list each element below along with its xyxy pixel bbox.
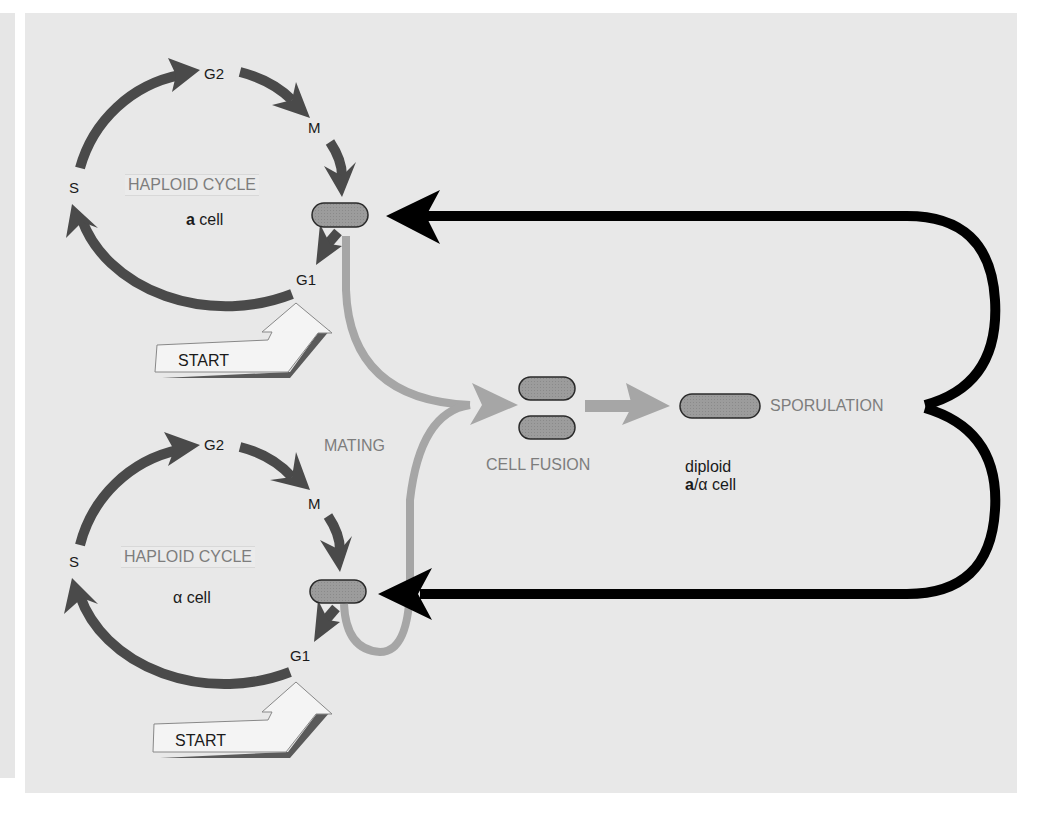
bottom-haploid-cycle-title: HAPLOID CYCLE [121, 546, 255, 568]
bottom-phase-g1-label: G1 [290, 648, 310, 663]
arrowhead-to-fusion-icon [470, 383, 518, 425]
fusing-cell-top [519, 377, 575, 400]
haploid-a-cell [312, 203, 368, 227]
cell-type-alpha: α [173, 589, 182, 606]
arrowhead-cell-to-g1-icon [314, 600, 340, 642]
bottom-cell-label: α cell [173, 590, 211, 606]
diploid-cell [680, 394, 760, 418]
top-phase-s-label: S [69, 180, 79, 195]
bottom-phase-s-label: S [69, 554, 79, 569]
top-start-label: START [178, 353, 229, 369]
top-phase-g2-label: G2 [204, 66, 224, 81]
diploid-a-bold: a [685, 476, 694, 493]
bottom-phase-m-label: M [308, 496, 321, 511]
sporulation-label: SPORULATION [770, 398, 884, 414]
top-phase-g1-label: G1 [296, 272, 316, 287]
cell-word: cell [182, 589, 210, 606]
yeast-life-cycle-diagram [0, 0, 1041, 815]
cell-type-a: a [186, 211, 195, 228]
top-phase-m-label: M [308, 120, 321, 135]
haploid-alpha-cell [310, 580, 366, 603]
diploid-alpha-cell: /α cell [694, 476, 736, 493]
fusion-to-diploid-arrow [585, 383, 670, 425]
bottom-start-label: START [175, 733, 226, 749]
diploid-label-line2: a/α cell [685, 476, 736, 494]
cell-fusion-label: CELL FUSION [486, 457, 590, 473]
mating-label: MATING [324, 438, 385, 454]
diploid-label-line1: diploid [685, 458, 731, 476]
cell-word: cell [195, 211, 223, 228]
bottom-phase-g2-label: G2 [204, 437, 224, 452]
top-cell-label: a cell [186, 212, 223, 228]
arrowhead-cell-to-g1-icon [316, 224, 342, 265]
top-haploid-cycle-title: HAPLOID CYCLE [125, 174, 259, 196]
fusing-cell-bottom [519, 416, 575, 439]
